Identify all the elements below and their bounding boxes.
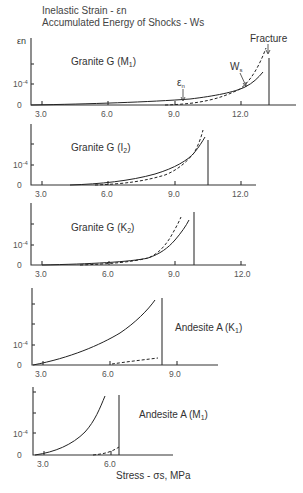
axes: [31, 203, 246, 265]
panel-granite-m1: εn 10-4 0 3.0 6.0 9.0 12.0 Granite G (M1…: [13, 33, 296, 119]
inelastic-strain-curve: [35, 396, 105, 455]
x-tick: 9.0: [168, 189, 180, 199]
fracture-arrow: [266, 44, 270, 54]
header-line-1: Inelastic Strain - εn: [42, 5, 127, 16]
y-tick-1e-4: 10-4: [13, 79, 28, 89]
fracture-label: Fracture: [250, 33, 288, 44]
y-tick-1e-4: 10-4: [13, 240, 28, 250]
panel-andesite-m1: 10-4 0 3.0 6.0 Andesite A (M1): [13, 387, 208, 469]
x-tick: 3.0: [35, 369, 47, 379]
y-tick-0: 0: [17, 180, 22, 190]
x-tick: 3.0: [35, 189, 47, 199]
y-axis-symbol: εn: [17, 36, 26, 46]
x-tick: 6.0: [102, 369, 114, 379]
axes: [31, 38, 296, 105]
shock-energy-curve: [95, 130, 203, 185]
figure: Inelastic Strain - εn Accumulated Energy…: [0, 0, 303, 493]
panel-granite-k2: 10-4 0 3.0 6.0 9.0 12.0 Granite G (K2): [13, 203, 251, 279]
shock-energy-curve: [93, 447, 119, 455]
panel-title: Andesite A (K1): [175, 322, 242, 334]
x-tick: 6.0: [101, 109, 113, 119]
inelastic-strain-curve: [31, 72, 263, 105]
x-axis-label: Stress - σs, MPa: [116, 470, 191, 481]
x-tick: 12.0: [232, 189, 249, 199]
x-tick: 3.0: [35, 269, 47, 279]
panel-title: Granite G (I2): [71, 142, 131, 154]
panel-title: Granite G (M1): [71, 56, 136, 68]
y-tick-0: 0: [17, 450, 22, 460]
x-tick: 3.0: [37, 459, 49, 469]
y-tick-0: 0: [17, 360, 22, 370]
ws-label: Ws: [230, 61, 242, 73]
ws-arrow: [240, 73, 246, 87]
inelastic-strain-curve: [33, 300, 155, 365]
y-tick-0: 0: [17, 260, 22, 270]
y-tick-1e-4: 10-4: [13, 429, 28, 439]
x-tick: 12.0: [232, 109, 249, 119]
x-tick: 6.0: [102, 269, 114, 279]
x-tick: 3.0: [35, 109, 47, 119]
x-tick: 12.0: [234, 269, 251, 279]
y-tick-1e-4: 10-4: [13, 160, 28, 170]
header-line-2: Accumulated Energy of Shocks - Ws: [42, 17, 204, 28]
y-tick-0: 0: [17, 100, 22, 110]
panel-title: Andesite A (M1): [139, 409, 208, 421]
panel-title: Granite G (K2): [71, 222, 134, 234]
x-tick: 9.0: [168, 269, 180, 279]
panel-andesite-k1: 10-4 0 3.0 6.0 9.0 Andesite A (K1): [13, 288, 242, 379]
axes: [33, 387, 173, 455]
x-tick: 6.0: [101, 189, 113, 199]
x-tick: 9.0: [169, 369, 181, 379]
axes: [31, 124, 256, 185]
y-tick-1e-4: 10-4: [13, 340, 28, 350]
x-tick: 9.0: [168, 109, 180, 119]
en-label: εn: [177, 77, 185, 89]
shock-energy-curve: [112, 358, 158, 364]
panel-granite-i2: 10-4 0 3.0 6.0 9.0 12.0 Granite G (I2): [13, 124, 256, 199]
x-tick: 6.0: [104, 459, 116, 469]
